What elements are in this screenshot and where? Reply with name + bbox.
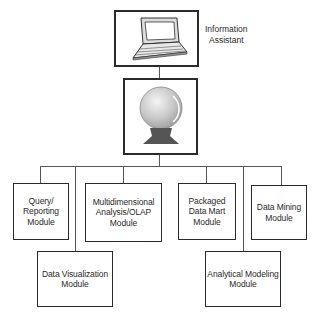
module-label: Multidimensional Analysis/OLAP Module <box>93 197 155 229</box>
information-assistant-box <box>114 10 199 67</box>
connector-ball-to-bus <box>159 155 160 166</box>
drop-packaged <box>206 166 207 183</box>
crystal-ball-icon <box>133 84 189 150</box>
information-assistant-label: Information Assistant <box>205 24 248 45</box>
analytical-modeling-module: Analytical Modeling Module <box>205 251 281 307</box>
bus-line <box>40 166 282 167</box>
drop-analytical <box>243 166 244 251</box>
module-label: Data Mining Module <box>257 202 301 223</box>
packaged-data-mart-module: Packaged Data Mart Module <box>178 183 236 240</box>
drop-mining <box>281 166 282 185</box>
info-label-text: Information Assistant <box>205 24 248 45</box>
module-label: Query/ Reporting Module <box>23 196 59 228</box>
laptop-icon <box>125 16 189 62</box>
data-visualization-module: Data Visualization Module <box>37 251 113 307</box>
multidimensional-olap-module: Multidimensional Analysis/OLAP Module <box>85 183 162 242</box>
data-mining-module: Data Mining Module <box>251 185 307 240</box>
module-label: Analytical Modeling Module <box>207 269 278 290</box>
drop-visualization <box>75 166 76 251</box>
query-reporting-module: Query/ Reporting Module <box>13 183 69 240</box>
drop-query <box>40 166 41 183</box>
module-label: Data Visualization Module <box>42 269 108 290</box>
connector-laptop-to-ball <box>159 67 160 78</box>
crystal-ball-box <box>123 78 198 155</box>
module-label: Packaged Data Mart Module <box>188 196 225 228</box>
drop-multidim <box>123 166 124 183</box>
